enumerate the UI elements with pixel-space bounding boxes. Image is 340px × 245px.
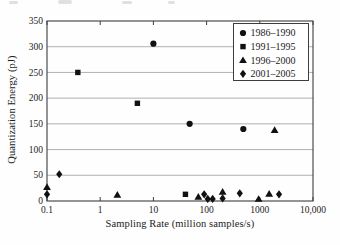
data-point [56, 170, 62, 178]
y-tick-label: 350 [29, 16, 44, 26]
data-point [187, 121, 193, 127]
data-point [265, 190, 273, 197]
data-point [237, 189, 243, 197]
y-tick-label: 150 [29, 119, 44, 129]
data-point [75, 70, 80, 75]
data-point [219, 188, 227, 195]
x-tick-label: 100 [199, 205, 214, 215]
figure-canvas: 0501001502002503003500.1110100100010,000… [0, 0, 340, 245]
y-tick-label: 300 [29, 42, 44, 52]
x-tick-label: 0.1 [41, 205, 53, 215]
data-point [240, 30, 246, 36]
legend-label: 1996–2000 [251, 55, 296, 66]
data-point [276, 190, 282, 198]
x-tick-label: 1000 [250, 205, 269, 215]
data-point [43, 183, 51, 190]
data-point [113, 191, 121, 198]
y-tick-label: 100 [29, 145, 44, 155]
data-point [135, 101, 140, 106]
x-tick-label: 10,000 [300, 205, 326, 215]
legend-label: 1986–1990 [251, 27, 296, 38]
data-point [183, 192, 188, 197]
data-point [240, 44, 245, 49]
data-point [271, 126, 279, 133]
legend-label: 1991–1995 [251, 41, 296, 52]
x-tick-label: 10 [149, 205, 159, 215]
data-point [210, 195, 216, 203]
y-tick-label: 50 [34, 170, 44, 180]
plot-area: 0501001502002503003500.1110100100010,000… [0, 0, 340, 245]
y-tick-label: 200 [29, 93, 44, 103]
data-point [150, 41, 156, 47]
data-point [240, 126, 246, 132]
quantization-energy-chart: 0501001502002503003500.1110100100010,000… [0, 0, 340, 245]
legend-label: 2001–2005 [251, 68, 296, 79]
data-point [255, 195, 263, 202]
x-tick-label: 1 [98, 205, 103, 215]
y-tick-label: 250 [29, 68, 44, 78]
data-point [44, 190, 50, 198]
data-point [194, 193, 202, 200]
